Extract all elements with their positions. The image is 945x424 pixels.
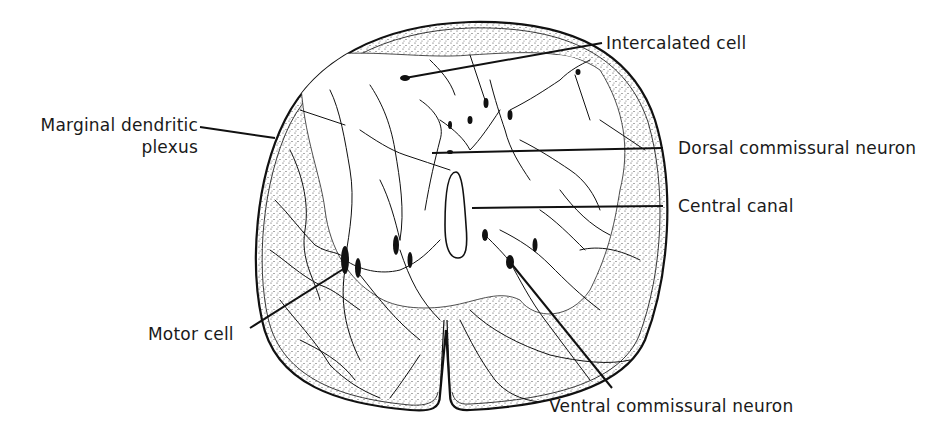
label-marginal-dendritic-line1: Marginal dendritic bbox=[20, 115, 198, 135]
marginal-dendritic-leader bbox=[200, 127, 275, 138]
label-ventral-commissural-neuron: Ventral commissural neuron bbox=[549, 396, 793, 416]
label-central-canal: Central canal bbox=[678, 196, 794, 216]
label-dorsal-commissural-neuron: Dorsal commissural neuron bbox=[678, 138, 916, 158]
label-motor-cell: Motor cell bbox=[148, 324, 234, 344]
spinal-cord-diagram bbox=[0, 0, 945, 424]
label-marginal-dendritic-line2: plexus bbox=[20, 137, 198, 157]
label-intercalated-cell: Intercalated cell bbox=[606, 33, 746, 53]
